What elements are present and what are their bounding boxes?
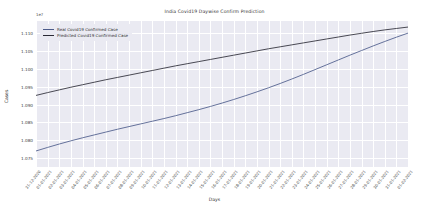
y-tick-label: 1.080 (0, 138, 33, 143)
y-axis-title: Cases (4, 77, 9, 117)
legend-color-swatch (43, 29, 54, 30)
legend-color-swatch (43, 35, 54, 36)
chart-figure: India Covid19 Daywise Confirm Prediction… (0, 0, 429, 211)
legend-label: Real Covid19 Confirmed Case (57, 27, 118, 32)
y-tick-label: 1.105 (0, 49, 33, 54)
y-tick-label: 1.085 (0, 120, 33, 125)
y-tick-label: 1.100 (0, 67, 33, 72)
y-tick-label: 1.075 (0, 156, 33, 161)
y-tick-label: 1.110 (0, 31, 33, 36)
legend-item: Predicted Covid19 Confirmed Case (43, 33, 128, 39)
x-axis-title: Days (0, 197, 429, 202)
chart-legend: Real Covid19 Confirmed CasePredicted Cov… (40, 24, 132, 41)
legend-label: Predicted Covid19 Confirmed Case (57, 33, 128, 38)
